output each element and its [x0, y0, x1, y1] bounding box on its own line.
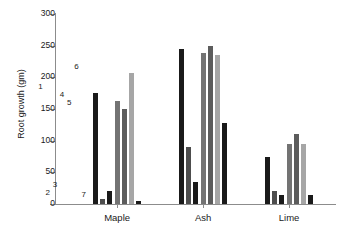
bar-value-label-6: 6: [72, 62, 82, 71]
y-axis-tick-label: 50: [11, 167, 55, 176]
bar-group-maple: [93, 14, 141, 204]
bar-value-label-1: 1: [36, 82, 46, 91]
bar-lime-2: [272, 191, 277, 204]
x-axis-tick: [117, 205, 118, 208]
bar-ash-3: [193, 182, 198, 204]
bar-group-lime: [265, 14, 313, 204]
y-axis-tick-label: 150: [11, 104, 55, 113]
bar-ash-2: [186, 147, 191, 204]
x-axis-tick: [289, 205, 290, 208]
x-axis-category-label-ash: Ash: [173, 212, 233, 224]
bar-ash-7: [222, 123, 227, 204]
y-axis-tick-label: 100: [11, 136, 55, 145]
bar-ash-4: [201, 53, 206, 204]
x-axis-tick: [203, 205, 204, 208]
bar-maple-5: [122, 109, 127, 204]
y-axis-tick-label: 250: [11, 41, 55, 50]
x-axis-category-label-lime: Lime: [259, 212, 319, 224]
bar-maple-1: [93, 93, 98, 204]
bar-value-label-5: 5: [64, 98, 74, 107]
bar-maple-4: [115, 101, 120, 204]
bar-lime-3: [279, 195, 284, 205]
bar-lime-6: [301, 144, 306, 204]
bar-ash-6: [215, 55, 220, 204]
bar-ash-1: [179, 49, 184, 204]
bar-lime-7: [308, 195, 313, 205]
y-axis-tick-label: 300: [11, 9, 55, 18]
x-axis-category-label-maple: Maple: [87, 212, 147, 224]
bar-lime-4: [287, 144, 292, 204]
bar-lime-5: [294, 134, 299, 204]
bar-chart: Root growth (gm) 300250200150100500 1234…: [0, 0, 346, 238]
bar-lime-1: [265, 157, 270, 205]
bar-value-label-3: 3: [50, 180, 60, 189]
bar-group-ash: [179, 14, 227, 204]
bar-ash-5: [208, 46, 213, 204]
bar-maple-6: [129, 73, 134, 204]
y-axis-ticks: 300250200150100500: [0, 0, 55, 238]
plot-area: [55, 14, 335, 204]
bar-maple-2: [100, 199, 105, 204]
bar-maple-7: [136, 201, 141, 204]
y-axis-tick-label: 200: [11, 72, 55, 81]
bar-maple-3: [107, 191, 112, 204]
y-axis-tick-label: 0: [11, 199, 55, 208]
bar-value-label-7: 7: [79, 190, 89, 199]
x-axis-line: [55, 204, 336, 205]
